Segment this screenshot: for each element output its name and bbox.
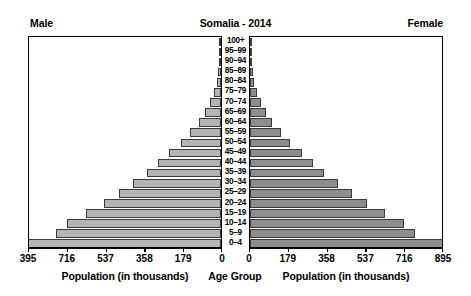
male-bar-row xyxy=(29,67,221,77)
male-bar-row xyxy=(29,219,221,229)
female-bar-row xyxy=(250,209,442,219)
female-bar-row xyxy=(250,98,442,108)
male-bar xyxy=(28,239,221,248)
female-bar-row xyxy=(250,148,442,158)
female-bar-row xyxy=(250,67,442,77)
female-panel xyxy=(249,36,443,248)
axis-tick-label: 895 xyxy=(435,253,452,264)
female-bar xyxy=(250,108,266,117)
male-bar-row xyxy=(29,118,221,128)
female-bar xyxy=(250,128,281,137)
female-bar xyxy=(250,229,415,238)
age-group-label: 0–4 xyxy=(222,238,249,248)
female-bar xyxy=(250,38,252,47)
axis-tick xyxy=(144,248,145,252)
male-bar xyxy=(219,38,221,47)
axis-tick-label: 716 xyxy=(58,253,75,264)
male-bar xyxy=(199,118,221,127)
female-bar xyxy=(250,48,252,57)
female-bar xyxy=(250,68,253,77)
age-group-label: 55–59 xyxy=(222,127,249,137)
male-bar-row xyxy=(29,148,221,158)
female-bar-row xyxy=(250,199,442,209)
axis-tick xyxy=(28,248,29,252)
axis-tick-label: 358 xyxy=(136,253,153,264)
male-panel xyxy=(28,36,222,248)
female-bar xyxy=(250,209,385,218)
male-bar-row xyxy=(29,188,221,198)
female-bar-rows xyxy=(250,37,442,247)
female-bar xyxy=(250,219,404,228)
age-group-label: 75–79 xyxy=(222,86,249,96)
female-bar-row xyxy=(250,168,442,178)
female-bar-row xyxy=(250,178,442,188)
right-axis-title: Population (in thousands) xyxy=(283,270,410,282)
axis-tick-label: 179 xyxy=(279,253,296,264)
male-bar xyxy=(133,179,221,188)
female-bar xyxy=(250,159,313,168)
male-bar xyxy=(119,189,221,198)
age-group-label: 10–14 xyxy=(222,218,249,228)
female-bar-row xyxy=(250,158,442,168)
plot-area: 100+95–9990–9485–8980–8475–7970–7465–696… xyxy=(28,36,443,248)
axis-tick-label: 0 xyxy=(219,253,225,264)
male-bar-row xyxy=(29,128,221,138)
age-group-label: 45–49 xyxy=(222,147,249,157)
male-bar xyxy=(158,159,221,168)
axis-tick xyxy=(327,248,328,252)
axis-tick xyxy=(221,248,222,252)
axis-tick xyxy=(106,248,107,252)
axis-tick-label: 358 xyxy=(318,253,335,264)
age-group-label: 70–74 xyxy=(222,97,249,107)
male-bar-rows xyxy=(29,37,221,247)
axis-tick-label: 179 xyxy=(175,253,192,264)
female-bar-row xyxy=(250,57,442,67)
female-bar-row xyxy=(250,108,442,118)
female-bar-row xyxy=(250,37,442,47)
axis-line xyxy=(249,248,443,249)
axis-tick-label: 716 xyxy=(396,253,413,264)
age-group-label: 95–99 xyxy=(222,46,249,56)
male-bar-row xyxy=(29,47,221,57)
male-bar-row xyxy=(29,229,221,239)
female-bar-row xyxy=(250,188,442,198)
female-bar xyxy=(250,149,302,158)
chart-header: Male Somalia - 2014 Female xyxy=(0,17,471,33)
male-bar xyxy=(219,58,221,67)
female-bar xyxy=(250,98,261,107)
axis-tick-label: 0 xyxy=(246,253,252,264)
female-bar-row xyxy=(250,128,442,138)
female-bar xyxy=(250,58,252,67)
axis-tick xyxy=(67,248,68,252)
male-bar-row xyxy=(29,87,221,97)
male-bar xyxy=(205,108,221,117)
male-bar xyxy=(190,128,221,137)
axis-tick-label: 395 xyxy=(20,253,37,264)
age-group-column: 100+95–9990–9485–8980–8475–7970–7465–696… xyxy=(222,36,249,248)
female-bar-row xyxy=(250,47,442,57)
male-bar-row xyxy=(29,178,221,188)
male-bar xyxy=(181,139,221,148)
age-group-label: 80–84 xyxy=(222,76,249,86)
male-bar-row xyxy=(29,239,221,248)
male-bar xyxy=(218,68,221,77)
male-bar xyxy=(169,149,221,158)
female-bar xyxy=(250,239,443,248)
female-x-axis: 0179358537716895 xyxy=(249,248,443,266)
female-bar xyxy=(250,199,367,208)
male-bar-row xyxy=(29,199,221,209)
age-group-label: 40–44 xyxy=(222,157,249,167)
female-bar-row xyxy=(250,118,442,128)
axis-tick xyxy=(249,248,250,252)
male-bar-row xyxy=(29,37,221,47)
female-bar xyxy=(250,118,272,127)
age-group-label: 15–19 xyxy=(222,208,249,218)
axis-tick xyxy=(404,248,405,252)
age-group-label: 85–89 xyxy=(222,66,249,76)
female-bar-row xyxy=(250,138,442,148)
age-group-label: 65–69 xyxy=(222,107,249,117)
male-bar-row xyxy=(29,57,221,67)
axis-tick xyxy=(365,248,366,252)
male-bar xyxy=(219,48,221,57)
female-bar-row xyxy=(250,219,442,229)
